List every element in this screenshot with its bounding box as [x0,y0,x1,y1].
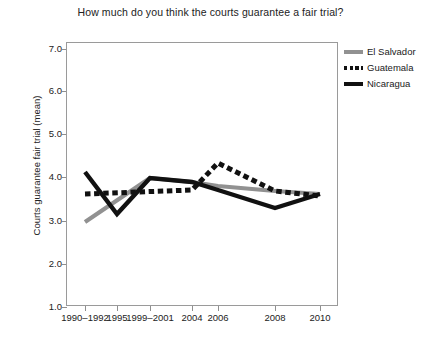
y-tick-mark [62,307,67,308]
legend-item-nicaragua: Nicaragua [344,76,421,91]
x-tick-label: 2004 [181,312,202,323]
x-tick-mark [275,306,276,311]
y-tick-label: 4.0 [24,172,62,182]
y-tick-label: 2.0 [24,259,62,269]
x-tick-label: 2008 [264,312,285,323]
plot-lines [66,42,338,306]
x-tick-label: 2010 [309,312,330,323]
chart-legend: El Salvador Guatemala Nicaragua [344,44,421,92]
x-tick-mark [117,306,118,311]
legend-item-el-salvador: El Salvador [344,44,421,59]
x-tick-label: 1990–1992 [61,312,109,323]
x-tick-label: 1995 [106,312,127,323]
chart-title: How much do you think the courts guarant… [0,6,421,18]
x-tick-mark [85,306,86,311]
x-tick-label: 1999–2001 [126,312,174,323]
y-tick-label: 6.0 [24,86,62,96]
legend-item-guatemala: Guatemala [344,60,421,75]
legend-swatch-guatemala [344,62,363,73]
chart-figure: How much do you think the courts guarant… [0,0,421,350]
legend-label-el-salvador: El Salvador [367,46,416,57]
x-tick-mark [218,306,219,311]
y-tick-label: 3.0 [24,216,62,226]
legend-swatch-el-salvador [344,46,363,57]
x-tick-mark [320,306,321,311]
y-tick-label: 7.0 [24,44,62,54]
x-tick-mark [192,306,193,311]
legend-label-nicaragua: Nicaragua [367,78,410,89]
y-axis-tick-labels: 7.0 6.0 5.0 4.0 3.0 2.0 1.0 [18,0,62,350]
y-tick-label: 5.0 [24,129,62,139]
legend-swatch-nicaragua [344,78,363,89]
legend-label-guatemala: Guatemala [367,62,413,73]
y-tick-label: 1.0 [24,302,62,312]
x-tick-mark [150,306,151,311]
x-tick-label: 2006 [207,312,228,323]
